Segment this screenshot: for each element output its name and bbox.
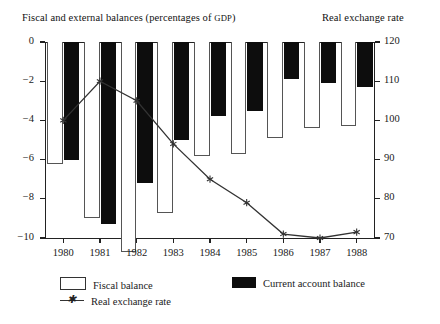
legend-label-real-exchange-rate: Real exchange rate bbox=[91, 296, 171, 307]
bar-current-account-balance bbox=[284, 42, 300, 79]
chart-title-left: Fiscal and external balances (percentage… bbox=[22, 12, 236, 23]
legend-label-fiscal: Fiscal balance bbox=[93, 280, 153, 291]
x-axis-tick bbox=[63, 238, 64, 243]
bar-fiscal-balance bbox=[157, 42, 173, 213]
left-axis-tick-label: 0 bbox=[0, 35, 34, 46]
x-axis-tick bbox=[246, 238, 247, 243]
x-axis-tick-label: 1984 bbox=[190, 247, 230, 258]
left-axis-tick-label: −4 bbox=[0, 113, 34, 124]
bar-current-account-balance bbox=[137, 42, 153, 183]
left-axis-tick bbox=[40, 81, 45, 82]
bar-fiscal-balance bbox=[304, 42, 320, 128]
right-axis-tick bbox=[375, 81, 380, 82]
left-axis-tick bbox=[40, 120, 45, 121]
legend-swatch-current-icon bbox=[232, 277, 256, 288]
right-axis-tick bbox=[375, 41, 380, 42]
right-axis-tick-label: 70 bbox=[384, 231, 418, 242]
left-axis-tick-label: −2 bbox=[0, 74, 34, 85]
bar-fiscal-balance bbox=[341, 42, 357, 126]
chart-title-left-caps: GDP bbox=[214, 13, 232, 23]
x-axis-tick-label: 1983 bbox=[153, 247, 193, 258]
x-axis-tick-label: 1987 bbox=[300, 247, 340, 258]
right-axis-tick-label: 80 bbox=[384, 191, 418, 202]
left-axis-tick-label: −6 bbox=[0, 152, 34, 163]
x-axis-tick bbox=[136, 238, 137, 243]
bar-current-account-balance bbox=[101, 42, 117, 224]
right-axis-tick bbox=[375, 159, 380, 160]
right-axis-tick-label: 100 bbox=[384, 113, 418, 124]
left-axis-tick-label: −8 bbox=[0, 191, 34, 202]
bar-current-account-balance bbox=[321, 42, 337, 83]
x-axis-tick bbox=[356, 238, 357, 243]
chart-figure: Fiscal and external balances (percentage… bbox=[0, 0, 440, 324]
chart-title-left-text: Fiscal and external balances (percentage… bbox=[22, 12, 214, 23]
bar-current-account-balance bbox=[174, 42, 190, 140]
right-axis-tick-label: 90 bbox=[384, 152, 418, 163]
legend-item-fiscal[interactable]: Fiscal balance bbox=[60, 277, 153, 291]
left-axis-tick-label: −10 bbox=[0, 231, 34, 242]
left-axis-tick bbox=[40, 198, 45, 199]
bar-current-account-balance bbox=[247, 42, 263, 111]
left-axis-tick bbox=[40, 237, 45, 238]
x-axis-tick-label: 1981 bbox=[80, 247, 120, 258]
legend-swatch-fiscal-icon bbox=[60, 277, 86, 290]
right-axis-tick bbox=[375, 237, 380, 238]
bar-fiscal-balance bbox=[84, 42, 100, 218]
bar-current-account-balance bbox=[64, 42, 80, 160]
left-axis-tick bbox=[40, 41, 45, 42]
legend-swatch-line-star-icon: ✱ bbox=[60, 295, 84, 306]
bar-fiscal-balance bbox=[267, 42, 283, 138]
x-axis-tick bbox=[173, 238, 174, 243]
x-axis-tick bbox=[283, 238, 284, 243]
x-axis-tick-label: 1982 bbox=[117, 247, 157, 258]
right-axis-tick bbox=[375, 198, 380, 199]
right-axis-tick-label: 110 bbox=[384, 74, 418, 85]
x-axis-tick-label: 1988 bbox=[337, 247, 377, 258]
bar-fiscal-balance bbox=[194, 42, 210, 156]
x-axis-tick-label: 1986 bbox=[263, 247, 303, 258]
right-axis-tick-label: 120 bbox=[384, 35, 418, 46]
x-axis-tick bbox=[319, 238, 320, 243]
left-axis-tick bbox=[40, 159, 45, 160]
bar-fiscal-balance bbox=[47, 42, 63, 164]
right-axis-tick bbox=[375, 120, 380, 121]
chart-legend: Fiscal balance Current account balance ✱… bbox=[60, 277, 390, 319]
bar-current-account-balance bbox=[211, 42, 227, 116]
bar-fiscal-balance bbox=[231, 42, 247, 154]
chart-title-right: Real exchange rate bbox=[322, 12, 404, 23]
legend-label-current-account: Current account balance bbox=[263, 278, 365, 289]
bar-fiscal-balance bbox=[121, 42, 137, 252]
legend-item-current-account[interactable]: Current account balance bbox=[232, 277, 365, 289]
x-axis-tick bbox=[99, 238, 100, 243]
legend-item-real-exchange-rate[interactable]: ✱Real exchange rate bbox=[60, 295, 171, 307]
chart-title-left-tail: ) bbox=[232, 12, 236, 23]
bar-current-account-balance bbox=[357, 42, 373, 87]
x-axis-tick-label: 1985 bbox=[227, 247, 267, 258]
x-axis-tick-label: 1980 bbox=[43, 247, 83, 258]
x-axis-tick bbox=[209, 238, 210, 243]
